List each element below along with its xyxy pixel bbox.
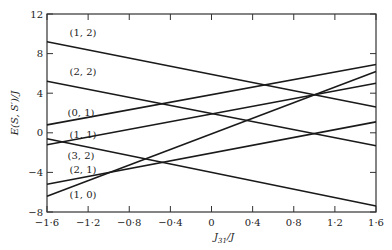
chart: −1·6−1·2−0·8−0·400·40·81·21·6 −8−404812 … <box>0 0 392 250</box>
series-label: (3, 2) <box>68 150 95 161</box>
x-tick-label: −0·4 <box>158 217 182 228</box>
x-tick-label: 0·8 <box>286 217 302 228</box>
x-tick-label: −1·6 <box>35 217 59 228</box>
x-tick-label: 1·2 <box>327 217 343 228</box>
series-label: (2, 1) <box>70 164 97 175</box>
y-tick-label: 4 <box>37 88 43 99</box>
x-tick-label: 0 <box>208 217 214 228</box>
series-labels: (1, 2)(2, 2)(0, 1)(1, 1)(3, 2)(2, 1)(1, … <box>68 27 97 200</box>
x-tick-label: 0·4 <box>245 217 261 228</box>
series-label: (1, 1) <box>70 129 97 140</box>
y-tick-label: −8 <box>28 207 43 218</box>
y-tick-label: 0 <box>37 127 43 138</box>
series-label: (1, 2) <box>70 27 97 38</box>
series-label: (2, 2) <box>70 66 97 77</box>
y-tick-label: 12 <box>30 9 43 20</box>
x-axis-title: J31/J <box>212 231 235 245</box>
x-tick-label: −0·8 <box>117 217 141 228</box>
y-tick-label: −4 <box>28 167 43 178</box>
y-tick-label: 8 <box>37 48 43 59</box>
x-tick-label: 1·6 <box>368 217 384 228</box>
x-tick-label: −1·2 <box>76 217 100 228</box>
y-axis-title: E(S, S′)/J <box>9 90 20 136</box>
series-label: (1, 0) <box>70 189 97 200</box>
series-label: (0, 1) <box>68 107 95 118</box>
